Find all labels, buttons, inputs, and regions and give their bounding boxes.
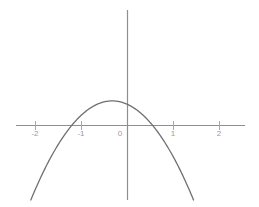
x-tick-label-pos2: 2 [217, 129, 222, 138]
x-tick-label-zero: 0 [118, 129, 123, 138]
parabola-plot-figure: -2 -1 0 1 2 [0, 0, 259, 207]
x-tick-label-neg1: -1 [77, 129, 85, 138]
plot-background [0, 0, 259, 207]
x-tick-label-neg2: -2 [31, 129, 39, 138]
x-tick-label-pos1: 1 [171, 129, 176, 138]
plot-canvas: -2 -1 0 1 2 [0, 0, 259, 207]
